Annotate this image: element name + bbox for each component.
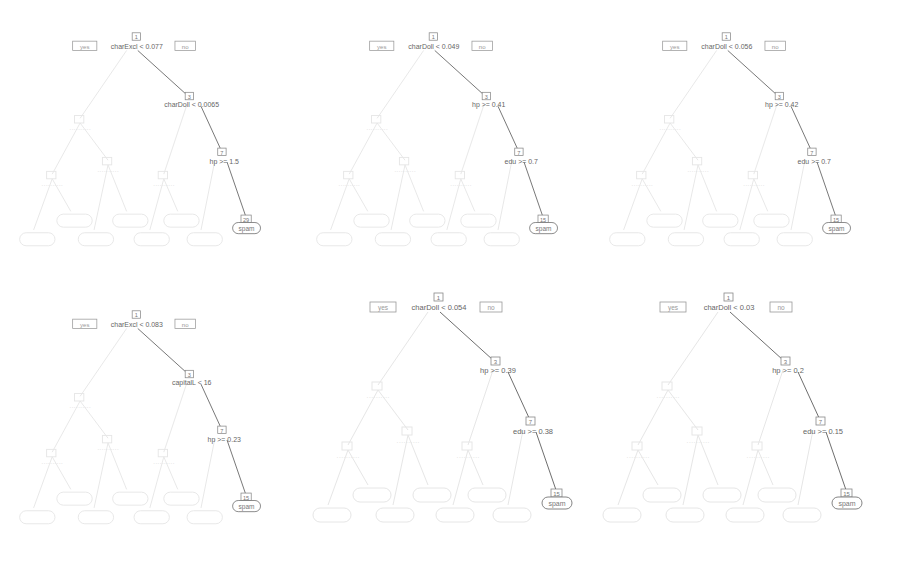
node-id: 15	[243, 495, 249, 501]
root-split: charDoll < 0.054	[412, 303, 467, 312]
svg-text:··········: ··········	[659, 126, 681, 133]
decision-tree: ·········· ·········· ·········· ·······…	[15, 30, 275, 253]
no-label: no	[487, 304, 495, 311]
leaf-label: spam	[548, 500, 565, 508]
faded-edges	[34, 328, 215, 507]
leaf-label: spam	[829, 225, 845, 233]
node-id: 7	[810, 150, 813, 156]
node-id: 1	[432, 34, 435, 40]
split-label: charDoll < 0.0065	[164, 101, 219, 108]
svg-text:··········: ··········	[41, 182, 63, 189]
node-id: 3	[188, 372, 191, 378]
tree-panel-2: ·········· ·········· ·········· ·······…	[312, 30, 572, 257]
split-node-2: 3 charDoll < 0.0065	[164, 92, 219, 108]
svg-text:··········: ··········	[394, 168, 416, 175]
svg-text:··········: ··········	[686, 439, 709, 446]
svg-text:··········: ··········	[456, 454, 479, 461]
tree-panel-1: ·········· ·········· ·········· ·······…	[15, 30, 275, 257]
highlight-edges	[138, 328, 246, 494]
faded-edges	[618, 312, 813, 505]
faded-nodes	[20, 116, 223, 246]
split-label: hp >= 0.23	[208, 436, 241, 444]
node-id: 3	[778, 94, 781, 100]
tree-panel-3: ·········· ·········· ·········· ·······…	[605, 30, 865, 257]
svg-text:··········: ··········	[687, 168, 709, 175]
yes-label: yes	[80, 322, 89, 328]
root-split: charDoll < 0.049	[408, 43, 459, 50]
node-id: 15	[843, 491, 850, 497]
split-node-3: 7 edu >= 0.15	[803, 417, 843, 436]
root-node: 1 yes charExcl < 0.077 no	[73, 33, 196, 51]
root-node: 1 yes charDoll < 0.049 no	[370, 33, 493, 51]
split-node-3: 7 edu >= 0.7	[798, 148, 831, 165]
svg-text:··········: ··········	[69, 126, 91, 133]
split-node-3: 7 hp >= 0.23	[208, 426, 241, 444]
no-label: no	[182, 44, 189, 50]
svg-text:··········: ··········	[97, 168, 119, 175]
node-id: 7	[220, 150, 223, 156]
node-id: 15	[833, 217, 839, 223]
highlight-edges	[138, 50, 246, 216]
node-id: 7	[517, 150, 520, 156]
leaf-node-spam: 15 spam	[823, 215, 851, 234]
tree-panel-4: ·········· ·········· ·········· ·······…	[15, 308, 275, 535]
yes-label: yes	[80, 44, 89, 50]
split-label: edu >= 0.7	[798, 158, 831, 165]
no-label: no	[479, 44, 486, 50]
svg-text:··········: ··········	[746, 454, 769, 461]
split-label: hp >= 1.5	[210, 158, 240, 166]
split-node-3: 7 edu >= 0.7	[505, 148, 538, 165]
leaf-node-spam: 15 spam	[530, 215, 558, 234]
node-id: 29	[243, 217, 249, 223]
svg-text:··········: ··········	[336, 454, 359, 461]
node-id: 7	[220, 428, 223, 434]
root-node: 1 yes charDoll < 0.056 no	[663, 33, 786, 51]
node-id: 1	[725, 34, 728, 40]
leaf-node-spam: 15 spam	[233, 493, 261, 512]
root-node: 1 yes charExcl < 0.083 no	[73, 311, 196, 329]
root-split: charExcl < 0.083	[111, 321, 163, 328]
leaf-label: spam	[536, 225, 552, 233]
faded-edges	[34, 50, 215, 229]
leaf-node-spam: 29 spam	[233, 215, 261, 234]
leaf-node-spam: 15 spam	[832, 489, 862, 509]
svg-text:··········: ··········	[338, 182, 360, 189]
decision-tree: ·········· ·········· ·········· ·······…	[308, 290, 588, 530]
node-id: 1	[135, 312, 138, 318]
no-label: no	[772, 44, 779, 50]
svg-text:··········: ··········	[97, 446, 119, 453]
faded-edges	[328, 312, 523, 505]
yes-label: yes	[378, 304, 389, 312]
decision-tree: ·········· ·········· ·········· ·······…	[15, 308, 275, 531]
decision-tree: ·········· ·········· ·········· ·······…	[312, 30, 572, 253]
svg-text:··········: ··········	[450, 182, 472, 189]
leaf-label: spam	[239, 503, 255, 511]
split-label: hp >= 0.2	[772, 366, 804, 375]
root-split: charDoll < 0.056	[701, 43, 752, 50]
yes-label: yes	[670, 44, 679, 50]
node-id: 3	[485, 94, 488, 100]
leaf-label: spam	[239, 225, 255, 233]
split-node-2: 3 capitalL < 16	[172, 370, 212, 387]
node-id: 15	[553, 491, 560, 497]
root-split: charExcl < 0.077	[111, 43, 163, 50]
split-label: edu >= 0.7	[505, 158, 538, 165]
svg-text:··········: ··········	[396, 439, 419, 446]
node-id: 15	[540, 217, 546, 223]
svg-text:··········: ··········	[69, 404, 91, 411]
yes-label: yes	[377, 44, 386, 50]
leaf-node-spam: 15 spam	[542, 489, 572, 509]
node-id: 3	[188, 94, 191, 100]
svg-text:··········: ··········	[626, 454, 649, 461]
svg-text:··········: ··········	[153, 460, 175, 467]
split-label: hp >= 0.42	[765, 101, 798, 109]
split-node-3: 7 hp >= 1.5	[210, 148, 240, 166]
split-node-2: 3 hp >= 0.41	[472, 92, 505, 109]
faded-nodes	[20, 394, 223, 524]
decision-tree: ·········· ·········· ·········· ·······…	[598, 290, 878, 530]
svg-text:··········: ··········	[41, 460, 63, 467]
split-label: edu >= 0.15	[803, 427, 843, 436]
split-node-2: 3 hp >= 0.39	[480, 357, 516, 375]
faded-edges	[331, 50, 512, 229]
split-label: hp >= 0.39	[480, 366, 516, 375]
